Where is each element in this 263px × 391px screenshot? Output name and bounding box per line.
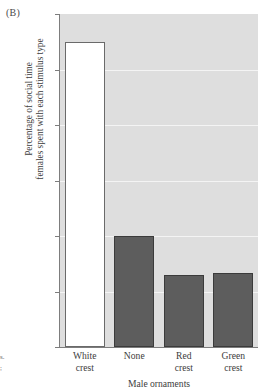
x-tick-label: Whitecrest (60, 350, 110, 374)
margin-artifact-line: ; (0, 363, 14, 374)
x-tick-label: Redcrest (159, 350, 209, 374)
y-axis-tick (55, 70, 59, 71)
y-axis-tick (55, 181, 59, 182)
x-tick-label-line: crest (60, 362, 110, 374)
x-tick-label-line: Green (209, 350, 259, 362)
margin-artifact-line: s. (0, 352, 14, 363)
y-axis-tick (55, 125, 59, 126)
y-axis-tick (55, 14, 59, 15)
x-tick-label-line: White (60, 350, 110, 362)
y-axis-tick (55, 236, 59, 237)
margin-artifact-text: s.; (0, 352, 14, 373)
bar-white-crest (65, 42, 105, 347)
x-tick-label-line: Red (159, 350, 209, 362)
bar-green-crest (213, 273, 253, 347)
x-tick-label-line: None (110, 350, 160, 362)
bar-red-crest (164, 275, 204, 347)
y-axis-title-line-2: females spent with each stimulus type (35, 38, 46, 179)
x-axis-line (59, 347, 258, 348)
y-axis-title-line-1: Percentage of social time (24, 62, 35, 156)
x-tick-label: Greencrest (209, 350, 259, 374)
figure-panel-b: (B) Percentage of social time females sp… (0, 0, 263, 391)
x-tick-label-line: crest (159, 362, 209, 374)
y-axis-tick (55, 292, 59, 293)
x-tick-label: None (110, 350, 160, 362)
x-tick-label-line: crest (209, 362, 259, 374)
plot-area (60, 14, 258, 347)
y-axis-title: Percentage of social time females spent … (21, 0, 49, 229)
x-axis-title: Male ornaments (60, 378, 258, 389)
bar-none (114, 236, 154, 347)
panel-label: (B) (6, 7, 20, 18)
y-axis-line: 0102030405060 (59, 14, 60, 348)
